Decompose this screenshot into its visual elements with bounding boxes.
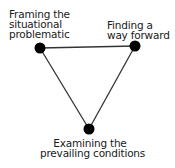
label-line: way forward xyxy=(107,30,170,40)
edge-right-bottom xyxy=(89,46,135,129)
label-examining: Examining the prevailing conditions xyxy=(40,138,140,158)
edge-left-right xyxy=(40,46,135,48)
label-line: problematic xyxy=(9,29,70,39)
node-right xyxy=(130,41,141,52)
node-left xyxy=(35,43,46,54)
label-framing: Framing the situational problematic xyxy=(9,9,70,39)
edge-bottom-left xyxy=(40,48,89,129)
label-line: prevailing conditions xyxy=(40,148,140,158)
label-finding: Finding a way forward xyxy=(107,20,170,40)
node-bottom xyxy=(84,124,95,135)
